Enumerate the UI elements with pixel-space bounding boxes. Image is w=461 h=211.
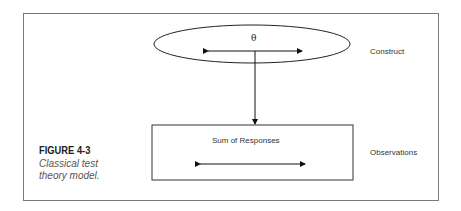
caption-line-1: Classical test [39, 158, 119, 170]
figure-caption: Classical test theory model. [39, 158, 119, 182]
observation-box [152, 125, 353, 180]
sum-of-responses-label: Sum of Responses [212, 136, 280, 145]
caption-line-2: theory model. [39, 170, 119, 182]
construct-ellipse [154, 25, 350, 63]
theta-symbol: θ [251, 33, 256, 43]
figure-number: FIGURE 4-3 [39, 144, 90, 156]
observations-label: Observations [370, 148, 417, 157]
construct-label: Construct [370, 47, 404, 56]
